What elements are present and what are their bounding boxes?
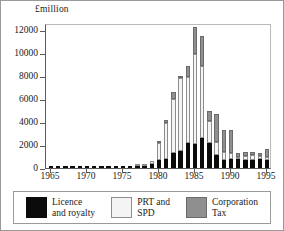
legend-item-1: PRT andSPD xyxy=(111,197,170,219)
bar-1989 xyxy=(222,130,226,168)
bar-segment-1989-2 xyxy=(222,130,226,152)
x-tick-mark-1975 xyxy=(122,169,123,173)
x-tick-mark-1985 xyxy=(194,169,195,173)
bar-1992 xyxy=(243,152,247,168)
bar-segment-1974-0 xyxy=(114,166,118,168)
bar-segment-1975-0 xyxy=(121,166,125,168)
y-tick-mark-6000 xyxy=(40,100,45,101)
x-tick-mark-1990 xyxy=(230,169,231,173)
bar-segment-1982-1 xyxy=(171,99,175,153)
bar-1969 xyxy=(78,167,82,168)
bar-segment-1986-2 xyxy=(200,36,204,66)
bar-1976 xyxy=(128,167,132,168)
y-tick-mark-2000 xyxy=(40,146,45,147)
bar-segment-1995-2 xyxy=(265,149,269,157)
bar-1987 xyxy=(207,111,211,168)
bar-segment-1980-0 xyxy=(157,160,161,168)
y-tick-label-4000: 4000 xyxy=(1,117,38,127)
bar-segment-1989-0 xyxy=(222,160,226,168)
bar-segment-1987-2 xyxy=(207,111,211,120)
bar-1991 xyxy=(236,153,240,168)
bar-1984 xyxy=(186,66,190,168)
bar-segment-1976-0 xyxy=(128,166,132,168)
y-tick-label-10000: 10000 xyxy=(1,48,38,58)
bar-segment-1965-0 xyxy=(49,166,53,168)
bar-segment-1966-0 xyxy=(56,166,60,168)
legend-label-line2-0: and royalty xyxy=(52,208,95,219)
bar-1986 xyxy=(200,36,204,168)
bar-segment-1968-0 xyxy=(70,166,74,168)
bar-segment-1995-0 xyxy=(265,160,269,168)
legend-label-line2-2: Tax xyxy=(212,208,258,219)
bar-segment-1971-0 xyxy=(92,166,96,168)
legend-swatch-white-outline xyxy=(111,197,132,218)
bar-segment-1984-1 xyxy=(186,77,190,143)
legend-item-0: Licenceand royalty xyxy=(26,197,95,219)
legend-swatch-grey-dotted xyxy=(186,197,207,218)
bar-segment-1981-0 xyxy=(164,159,168,168)
bar-segment-1985-1 xyxy=(193,54,197,145)
bar-segment-1991-0 xyxy=(236,159,240,168)
bar-1972 xyxy=(99,167,103,168)
bar-segment-1967-0 xyxy=(63,166,67,168)
bar-1965 xyxy=(49,167,53,168)
bar-segment-1984-2 xyxy=(186,66,190,77)
bar-1971 xyxy=(92,167,96,168)
bar-segment-1988-1 xyxy=(214,142,218,155)
bar-segment-1982-0 xyxy=(171,153,175,168)
bar-1981 xyxy=(164,120,168,168)
bar-segment-1981-1 xyxy=(164,123,168,159)
bar-1985 xyxy=(193,27,197,168)
y-tick-label-2000: 2000 xyxy=(1,140,38,150)
y-tick-mark-0 xyxy=(40,169,45,170)
chart-figure: £million 020004000600080001000012000 196… xyxy=(0,0,284,231)
bar-segment-1990-2 xyxy=(229,130,233,153)
bar-1982 xyxy=(171,92,175,168)
legend-label-line1-2: Corporation xyxy=(212,197,258,208)
bar-segment-1992-0 xyxy=(243,160,247,168)
bar-1974 xyxy=(114,167,118,168)
bar-series-container xyxy=(46,25,270,168)
bar-1968 xyxy=(70,167,74,168)
bar-segment-1986-1 xyxy=(200,66,204,138)
bar-segment-1970-0 xyxy=(85,166,89,168)
bar-segment-1982-2 xyxy=(171,92,175,99)
bar-segment-1989-1 xyxy=(222,152,226,160)
y-tick-mark-10000 xyxy=(40,54,45,55)
bar-1973 xyxy=(106,167,110,168)
legend-label-2: CorporationTax xyxy=(212,197,258,219)
bar-segment-1993-0 xyxy=(250,160,254,168)
y-tick-label-12000: 12000 xyxy=(1,25,38,35)
y-tick-mark-8000 xyxy=(40,77,45,78)
bar-1988 xyxy=(214,114,218,168)
bar-1970 xyxy=(85,167,89,168)
bar-segment-1990-0 xyxy=(229,159,233,168)
legend-label-1: PRT andSPD xyxy=(137,197,170,219)
bar-1979 xyxy=(150,161,154,168)
y-tick-mark-12000 xyxy=(40,31,45,32)
bar-segment-1985-0 xyxy=(193,144,197,168)
bar-segment-1972-0 xyxy=(99,166,103,168)
x-tick-mark-1995 xyxy=(266,169,267,173)
bar-segment-1987-0 xyxy=(207,143,211,168)
bar-1983 xyxy=(178,76,182,168)
bar-1966 xyxy=(56,167,60,168)
legend-label-line1-1: PRT and xyxy=(137,197,170,208)
bar-segment-1994-0 xyxy=(258,159,262,168)
bar-segment-1980-1 xyxy=(157,143,161,160)
x-tick-mark-1980 xyxy=(158,169,159,173)
bar-segment-1985-2 xyxy=(193,27,197,54)
bar-1995 xyxy=(265,149,269,168)
bar-1993 xyxy=(250,152,254,168)
y-axis-unit-label: £million xyxy=(35,4,69,14)
bar-segment-1988-2 xyxy=(214,114,218,142)
legend-label-line2-1: SPD xyxy=(137,208,170,219)
legend-item-2: CorporationTax xyxy=(186,197,258,219)
bar-segment-1977-0 xyxy=(135,166,139,168)
bar-segment-1979-0 xyxy=(150,164,154,168)
bar-1977 xyxy=(135,167,139,168)
bar-1994 xyxy=(258,153,262,168)
bar-segment-1978-0 xyxy=(142,166,146,168)
bar-segment-1986-0 xyxy=(200,138,204,168)
legend-label-line1-0: Licence xyxy=(52,197,95,208)
